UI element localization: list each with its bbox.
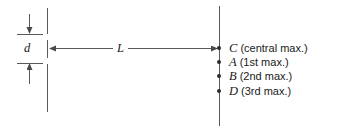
maxima-dot-C [217,46,221,50]
maxima-point-A: A [229,55,237,69]
maxima-desc-B: (2nd max.) [240,70,293,82]
maxima-point-B: B [229,69,237,83]
maxima-desc-C: (central max.) [240,42,307,54]
slit-separation-label: d [24,41,30,56]
screen-distance-label: L [113,41,128,56]
maxima-desc-A: (1st max.) [240,56,289,68]
maxima-label-C: C (central max.) [229,42,308,54]
maxima-label-A: A (1st max.) [229,56,289,68]
maxima-dot-A [217,60,221,64]
maxima-dot-B [217,74,221,78]
maxima-label-B: B (2nd max.) [229,70,292,82]
arrow-layer [0,0,341,132]
maxima-point-D: D [229,84,238,98]
maxima-dot-D [217,89,221,93]
maxima-label-D: D (3rd max.) [229,85,291,97]
maxima-desc-D: (3rd max.) [241,85,291,97]
maxima-point-C: C [229,41,237,55]
double-slit-diagram: d L C (central max.) A (1st max.) B (2nd… [0,0,341,132]
